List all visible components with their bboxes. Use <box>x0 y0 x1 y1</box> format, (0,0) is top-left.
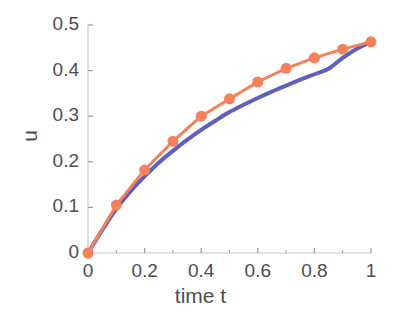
series-line <box>88 42 371 253</box>
data-point-marker <box>309 52 320 63</box>
data-point-marker <box>366 36 377 47</box>
data-point-marker <box>111 200 122 211</box>
data-series <box>83 36 377 258</box>
axis-ticks <box>88 25 371 253</box>
chart-figure: u time t 00.10.20.30.40.5 00.20.40.60.81 <box>0 0 401 316</box>
x-tick-label: 0.8 <box>284 260 344 282</box>
data-point-marker <box>196 111 207 122</box>
y-axis-label: u <box>18 116 42 156</box>
x-tick-label: 1 <box>341 260 401 282</box>
data-point-marker <box>224 93 235 104</box>
data-point-marker <box>139 165 150 176</box>
data-point-marker <box>252 77 263 88</box>
y-tick-label: 0.3 <box>53 104 79 126</box>
x-tick-label: 0.6 <box>228 260 288 282</box>
x-tick-label: 0.4 <box>171 260 231 282</box>
x-tick-label: 0 <box>58 260 118 282</box>
y-tick-label: 0.4 <box>53 59 79 81</box>
data-point-marker <box>167 136 178 147</box>
x-axis-label: time t <box>0 284 401 308</box>
y-tick-label: 0.2 <box>53 150 79 172</box>
y-tick-label: 0.5 <box>53 13 79 35</box>
data-point-marker <box>281 63 292 74</box>
x-tick-label: 0.2 <box>115 260 175 282</box>
data-point-marker <box>337 44 348 55</box>
axis-lines <box>88 25 371 253</box>
series-line <box>88 42 371 253</box>
data-point-marker <box>83 248 94 259</box>
y-tick-label: 0.1 <box>53 195 79 217</box>
